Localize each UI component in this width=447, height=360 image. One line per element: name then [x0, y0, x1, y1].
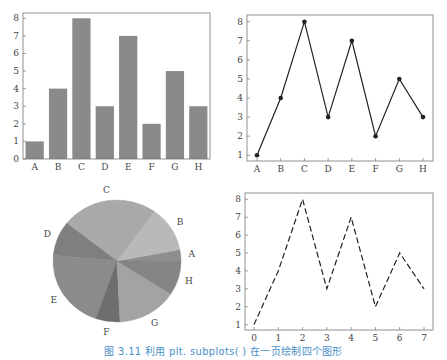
y-tick-label: 8 — [237, 17, 243, 27]
x-tick-label: C — [301, 164, 308, 174]
x-tick-label: F — [372, 164, 378, 174]
x-tick-label: E — [349, 164, 356, 174]
bar — [96, 106, 114, 159]
y-tick-label: 3 — [237, 112, 243, 122]
y-tick-label: 7 — [235, 212, 241, 222]
bar — [189, 106, 207, 159]
bar — [49, 89, 67, 159]
y-tick-label: 5 — [237, 74, 243, 84]
bar-chart-subplot: 012345678ABCDEFGH — [13, 13, 210, 172]
x-tick-label: 2 — [300, 333, 306, 343]
figure: 012345678ABCDEFGH 12345678ABCDEFGH ABCDE… — [0, 0, 447, 360]
y-tick-label: 2 — [13, 119, 19, 129]
x-tick-label: A — [30, 162, 38, 172]
pie-label: B — [177, 217, 184, 227]
x-tick-label: B — [55, 162, 62, 172]
x-tick-label: D — [101, 162, 108, 172]
x-tick-label: H — [194, 162, 202, 172]
y-tick-label: 3 — [235, 284, 241, 294]
dashed-line-chart-subplot: 1234567801234567 — [235, 193, 433, 343]
x-tick-label: H — [419, 164, 427, 174]
x-tick-label: 5 — [373, 333, 379, 343]
y-tick-label: 7 — [237, 36, 243, 46]
pie-label: F — [103, 327, 109, 337]
bar — [166, 71, 184, 159]
y-tick-label: 4 — [237, 93, 243, 103]
x-tick-label: E — [125, 162, 132, 172]
y-tick-label: 0 — [13, 154, 19, 164]
data-point-marker — [326, 115, 331, 120]
x-tick-label: B — [277, 164, 284, 174]
y-tick-label: 8 — [13, 13, 19, 23]
y-tick-label: 6 — [235, 230, 241, 240]
y-tick-label: 1 — [13, 136, 19, 146]
x-tick-label: D — [325, 164, 332, 174]
line-series — [257, 22, 423, 156]
y-tick-label: 4 — [235, 266, 241, 276]
data-point-marker — [373, 134, 378, 139]
data-point-marker — [302, 19, 307, 24]
y-tick-label: 7 — [13, 31, 19, 41]
pie-label: G — [151, 318, 158, 328]
x-tick-label: 4 — [348, 333, 354, 343]
x-tick-label: F — [148, 162, 154, 172]
bar — [72, 18, 90, 159]
x-tick-label: 1 — [275, 333, 281, 343]
dashed-line-series — [254, 199, 424, 324]
x-tick-label: G — [396, 164, 403, 174]
data-point-marker — [350, 38, 355, 43]
y-tick-label: 2 — [235, 302, 241, 312]
pie-label: H — [185, 276, 193, 286]
bar — [119, 36, 137, 159]
pie-label: D — [44, 229, 51, 239]
pie-label: C — [103, 185, 110, 195]
y-tick-label: 6 — [13, 48, 19, 58]
data-point-marker — [278, 96, 283, 101]
x-tick-label: 7 — [421, 333, 427, 343]
x-tick-label: 3 — [324, 333, 330, 343]
x-tick-label: C — [78, 162, 85, 172]
bar — [26, 141, 44, 159]
data-point-marker — [255, 153, 260, 158]
y-tick-label: 5 — [235, 248, 241, 258]
y-tick-label: 1 — [235, 320, 241, 330]
y-tick-label: 5 — [13, 66, 19, 76]
pie-label: A — [187, 249, 195, 259]
figure-caption: 图 3.11 利用 plt. subplots( ) 在一页绘制四个图形 — [0, 343, 447, 358]
y-tick-label: 1 — [237, 150, 243, 160]
y-tick-label: 3 — [13, 101, 19, 111]
x-tick-label: 6 — [397, 333, 403, 343]
x-tick-label: 0 — [251, 333, 257, 343]
data-point-marker — [421, 115, 426, 120]
data-point-marker — [397, 77, 402, 82]
y-tick-label: 8 — [235, 194, 241, 204]
y-tick-label: 4 — [13, 84, 19, 94]
x-tick-label: G — [171, 162, 178, 172]
y-tick-label: 2 — [237, 131, 243, 141]
pie-chart-subplot: ABCDEFGH — [44, 185, 196, 338]
pie-label: E — [51, 295, 58, 305]
line-chart-subplot: 12345678ABCDEFGH — [237, 15, 433, 174]
bar — [142, 124, 160, 159]
x-tick-label: A — [253, 164, 261, 174]
y-tick-label: 6 — [237, 55, 243, 65]
